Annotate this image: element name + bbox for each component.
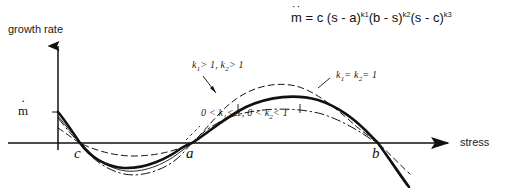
leader-line-right (318, 78, 330, 88)
equation-body-3: (s - c) (411, 10, 444, 25)
m-dot-glyph: m (18, 104, 28, 117)
annotation-k-equals-one: k1= k2= 1 (336, 70, 377, 83)
annot-lo-end: < 1 (273, 107, 288, 118)
annot-ul-mid: > 1, k (200, 59, 225, 70)
equation-exp-3-sub: 3 (448, 11, 452, 18)
y-axis-symbol: m (18, 104, 28, 117)
node-label-c: c (74, 146, 81, 161)
annotation-k-between-zero-and-one: 0 < k1< 1, 0 < k2< 1 (201, 108, 288, 121)
y-axis-title: growth rate (8, 24, 63, 35)
annot-lo-start: 0 < k (201, 107, 223, 118)
equation-exp-3: k3 (444, 10, 452, 19)
annot-r-end: = 1 (362, 69, 377, 80)
equation-body-2: (b - s) (369, 10, 403, 25)
equation-equals: = (305, 10, 313, 25)
node-label-b: b (372, 146, 380, 161)
x-axis-title: stress (460, 137, 489, 148)
equation-exp-2: k2 (403, 10, 411, 19)
equation-lhs: m (291, 10, 302, 25)
curve-k-greater-than-one (58, 84, 410, 174)
equation: m = c (s - a)k1(b - s)k2(s - c)k3 (291, 10, 452, 25)
annot-ul-end: > 1 (229, 59, 244, 70)
equation-exp-1: k1 (361, 10, 369, 19)
growth-rate-diagram: growth rate m stress c a b k1> 1, k2> 1 … (0, 0, 510, 188)
annot-r-mid: = k (344, 69, 358, 80)
equation-body-1: c (s - a) (317, 10, 361, 25)
annotation-k-greater-than-one: k1> 1, k2> 1 (192, 60, 244, 73)
node-label-a: a (186, 146, 194, 161)
annot-lo-mid: < 1, 0 < k (227, 107, 269, 118)
